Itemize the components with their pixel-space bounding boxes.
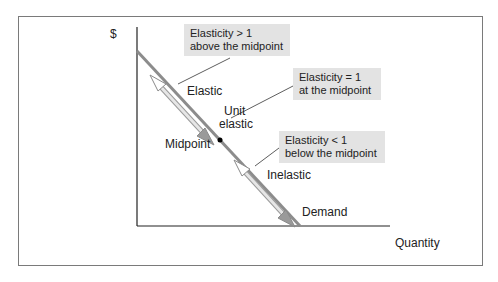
unit-elastic-label-line1: Unit <box>224 104 245 118</box>
callout-inelastic-line1: Elasticity < 1 <box>285 134 379 147</box>
elastic-label: Elastic <box>187 84 222 98</box>
callout-leader-inelastic <box>255 148 279 166</box>
unit-elastic-label-line2: elastic <box>219 117 253 131</box>
midpoint-marker <box>218 138 223 143</box>
inelastic-label: Inelastic <box>267 168 311 182</box>
x-axis-label: Quantity <box>395 236 440 250</box>
callout-inelastic: Elasticity < 1 below the midpoint <box>279 131 385 163</box>
callout-unit-line1: Elasticity = 1 <box>299 71 375 84</box>
callout-elastic: Elasticity > 1 above the midpoint <box>184 24 290 56</box>
callout-elastic-line1: Elasticity > 1 <box>190 27 284 40</box>
callout-inelastic-line2: below the midpoint <box>285 147 379 160</box>
y-axis-label: $ <box>110 27 117 41</box>
callout-unit-elastic: Elasticity = 1 at the midpoint <box>293 68 381 100</box>
callout-unit-line2: at the midpoint <box>299 84 375 97</box>
demand-curve-label: Demand <box>302 205 347 219</box>
callout-elastic-line2: above the midpoint <box>190 40 284 53</box>
callout-leader-elastic <box>178 58 230 84</box>
midpoint-label: Midpoint <box>165 137 210 151</box>
